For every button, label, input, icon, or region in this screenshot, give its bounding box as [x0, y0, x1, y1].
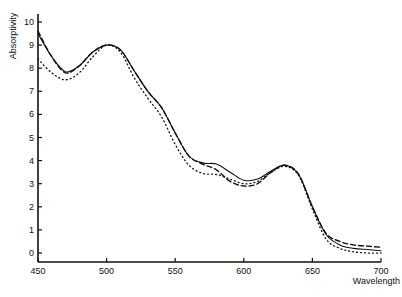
y-tick-label: 10: [24, 17, 34, 27]
y-tick-label: 6: [29, 109, 34, 119]
y-tick-label: 0: [29, 248, 34, 258]
y-tick-label: 3: [29, 179, 34, 189]
y-tick-label: 5: [29, 133, 34, 143]
y-tick-label: 1: [29, 225, 34, 235]
y-axis: 012345678910: [24, 14, 42, 262]
x-tick-label: 500: [99, 266, 114, 276]
y-tick-label: 8: [29, 63, 34, 73]
x-axis-title: Wavelength: [353, 276, 400, 286]
series-dotted-line: [38, 45, 381, 253]
y-tick-label: 4: [29, 156, 34, 166]
y-axis-title: Absorptivity: [8, 12, 18, 59]
series-dashed-line: [38, 31, 381, 247]
x-axis: 450500550600650700: [30, 258, 388, 276]
x-tick-label: 550: [168, 266, 183, 276]
x-tick-label: 700: [373, 266, 388, 276]
x-tick-label: 600: [236, 266, 251, 276]
x-tick-label: 450: [30, 266, 45, 276]
absorptivity-chart: 012345678910 450500550600650700 Absorpti…: [0, 0, 402, 297]
x-tick-label: 650: [305, 266, 320, 276]
y-tick-label: 7: [29, 86, 34, 96]
y-tick-label: 2: [29, 202, 34, 212]
series-layer: [38, 31, 381, 253]
y-tick-label: 9: [29, 40, 34, 50]
series-solid-line: [38, 34, 381, 251]
